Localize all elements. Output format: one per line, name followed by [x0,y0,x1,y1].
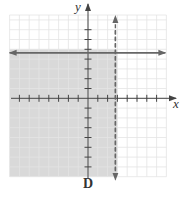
y-axis-label: y [75,0,81,15]
inequality-graph [0,0,190,198]
x-axis-label: x [173,96,179,112]
shaded-region [10,49,118,176]
figure-caption: D [83,176,93,192]
